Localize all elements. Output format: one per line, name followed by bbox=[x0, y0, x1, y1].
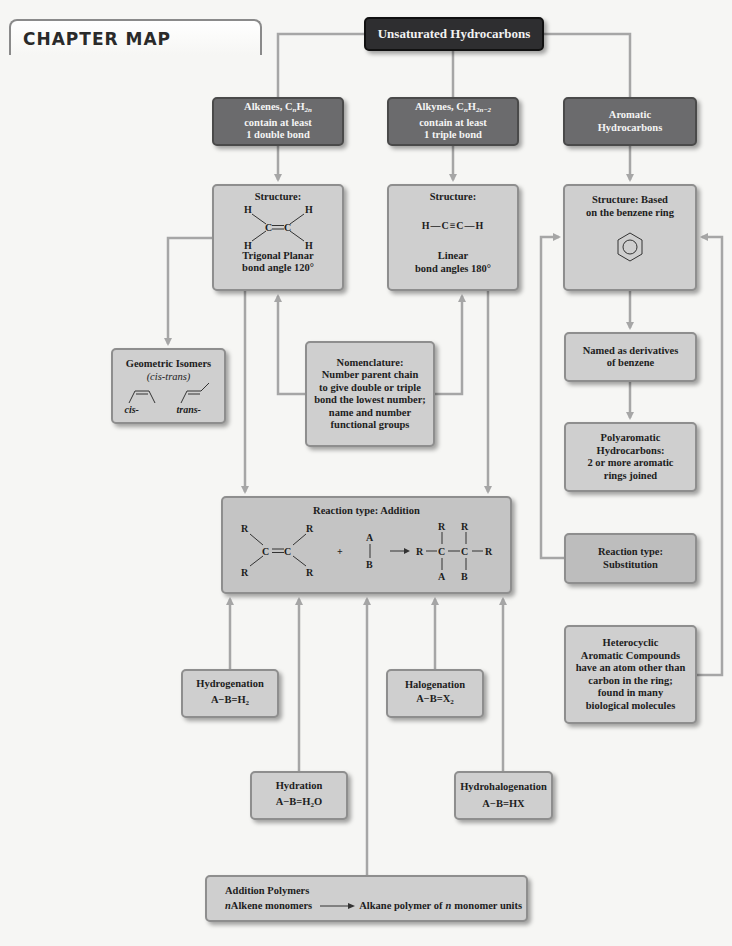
svg-text:B: B bbox=[461, 571, 468, 582]
svg-text:R: R bbox=[306, 523, 314, 534]
svg-text:R: R bbox=[461, 521, 469, 532]
hydration-name: Hydration bbox=[276, 780, 323, 793]
node-named-as-derivatives: Named as derivatives of benzene bbox=[564, 332, 697, 382]
hydrohalogenation-name: Hydrohalogenation bbox=[460, 781, 547, 794]
node-nomenclature: Nomenclature: Number parent chain to giv… bbox=[305, 341, 435, 447]
alkenes-line3: 1 double bond bbox=[246, 129, 310, 142]
hydrohalogenation-formula: A−B=HX bbox=[482, 798, 524, 811]
alkenes-line2: contain at least bbox=[244, 117, 312, 130]
aromatic-line2: Hydrocarbons bbox=[598, 122, 663, 135]
alkene-structure-title: Structure: bbox=[255, 191, 301, 204]
node-addition-reaction: Reaction type: Addition RR RR CC + AB R bbox=[221, 496, 512, 594]
hydrogenation-formula: A−B=H2 bbox=[211, 694, 249, 710]
cis-trans-drawing: cis- trans- bbox=[119, 383, 219, 417]
alkyne-bond-angle: bond angles 180° bbox=[415, 263, 491, 276]
alkyne-structure-title: Structure: bbox=[430, 191, 476, 204]
reaction-arrow-icon bbox=[320, 902, 356, 910]
svg-text:C: C bbox=[284, 222, 291, 233]
svg-text:C: C bbox=[461, 546, 468, 557]
chapter-map-header: CHAPTER MAP bbox=[9, 19, 262, 55]
heterocyclic-line: biological molecules bbox=[586, 700, 676, 713]
svg-text:H: H bbox=[244, 204, 252, 215]
alkene-bond-angle: bond angle 120° bbox=[242, 262, 314, 275]
node-substitution: Reaction type: Substitution bbox=[564, 533, 697, 584]
svg-text:R: R bbox=[241, 523, 249, 534]
node-addition-polymers: Addition Polymers n Alkene monomers Alka… bbox=[205, 875, 528, 922]
hydrogenation-name: Hydrogenation bbox=[196, 678, 263, 691]
nomenclature-line: functional groups bbox=[331, 419, 410, 432]
heterocyclic-line: found in many bbox=[598, 687, 663, 700]
svg-text:H: H bbox=[244, 240, 252, 250]
node-hydrohalogenation: Hydrohalogenation A−B=HX bbox=[454, 771, 553, 820]
heterocyclic-line: carbon in the ring; bbox=[588, 675, 672, 688]
alkynes-formula-line: Alkynes, CnH2n−2 bbox=[415, 101, 491, 117]
aromatic-line1: Aromatic bbox=[609, 109, 651, 122]
chapter-map-diagram: CHAPTER MAP Unsaturated Hydrocarbons Alk… bbox=[0, 0, 732, 946]
addition-reaction-equation-icon: RR RR CC + AB R CC R RR AB bbox=[232, 518, 502, 586]
alkene-geometry: Trigonal Planar bbox=[242, 250, 313, 263]
svg-text:+: + bbox=[337, 546, 343, 557]
svg-text:R: R bbox=[241, 567, 249, 578]
svg-text:B: B bbox=[366, 559, 373, 570]
hydration-formula: A−B=H2O bbox=[276, 796, 322, 812]
heterocyclic-line: Aromatic Compounds bbox=[581, 650, 680, 663]
node-hydration: Hydration A−B=H2O bbox=[250, 771, 348, 820]
substitution-line2: Substitution bbox=[603, 559, 658, 572]
named-line2: of benzene bbox=[607, 357, 655, 370]
nomenclature-line: bond the lowest number; bbox=[314, 394, 426, 407]
heterocyclic-line: have an atom other than bbox=[576, 662, 685, 675]
nomenclature-line: Nomenclature: bbox=[337, 357, 404, 370]
node-aromatic-structure: Structure: Based on the benzene ring bbox=[563, 184, 697, 291]
node-heterocyclic: Heterocyclic Aromatic Compounds have an … bbox=[564, 625, 697, 724]
acetylene-formula: H—C≡C—H bbox=[422, 220, 485, 233]
svg-text:C: C bbox=[438, 546, 445, 557]
node-alkyne-structure: Structure: H—C≡C—H Linear bond angles 18… bbox=[387, 184, 519, 291]
benzene-ring-icon bbox=[615, 231, 645, 263]
svg-text:C: C bbox=[265, 222, 272, 233]
substitution-line1: Reaction type: bbox=[598, 546, 663, 559]
svg-text:A: A bbox=[438, 571, 446, 582]
polyaromatic-line: rings joined bbox=[604, 470, 657, 483]
node-geometric-isomers: Geometric Isomers (cis-trans) cis- trans… bbox=[111, 348, 226, 424]
svg-text:H: H bbox=[305, 240, 313, 250]
polyaromatic-line: Hydrocarbons: bbox=[596, 445, 664, 458]
alkenes-formula-line: Alkenes, CnH2n bbox=[244, 101, 312, 117]
node-aromatic-hydrocarbons: Aromatic Hydrocarbons bbox=[563, 97, 697, 146]
polyaromatic-line: Polyaromatic bbox=[601, 432, 661, 445]
svg-text:R: R bbox=[306, 567, 314, 578]
named-line1: Named as derivatives bbox=[583, 345, 679, 358]
addition-polymers-title: Addition Polymers bbox=[225, 885, 309, 898]
alkyne-geometry: Linear bbox=[438, 250, 468, 263]
addition-reaction-title: Reaction type: Addition bbox=[313, 505, 420, 518]
halogenation-formula: A−B=X2 bbox=[416, 693, 454, 709]
cis-label: cis- bbox=[125, 404, 139, 417]
polyaromatic-line: 2 or more aromatic bbox=[587, 457, 673, 470]
nomenclature-line: name and number bbox=[329, 407, 411, 420]
svg-text:R: R bbox=[438, 521, 446, 532]
halogenation-name: Halogenation bbox=[405, 679, 465, 692]
svg-text:H: H bbox=[305, 204, 313, 215]
svg-text:C: C bbox=[284, 546, 291, 557]
node-hydrogenation: Hydrogenation A−B=H2 bbox=[181, 669, 279, 718]
svg-text:R: R bbox=[485, 546, 493, 557]
node-polyaromatic: Polyaromatic Hydrocarbons: 2 or more aro… bbox=[564, 422, 697, 492]
nomenclature-line: to give double or triple bbox=[319, 382, 421, 395]
heterocyclic-line: Heterocyclic bbox=[603, 637, 659, 650]
ethylene-structure-icon: HH HH CC bbox=[238, 204, 318, 250]
trans-label: trans- bbox=[177, 404, 201, 417]
node-alkynes: Alkynes, CnH2n−2 contain at least 1 trip… bbox=[387, 97, 519, 146]
root-label: Unsaturated Hydrocarbons bbox=[378, 28, 531, 41]
aromatic-structure-line1: Structure: Based bbox=[592, 194, 668, 207]
node-halogenation: Halogenation A−B=X2 bbox=[386, 669, 484, 718]
svg-text:R: R bbox=[416, 546, 424, 557]
nomenclature-line: Number parent chain bbox=[322, 369, 418, 382]
svg-text:A: A bbox=[366, 532, 374, 543]
geometric-isomers-title: Geometric Isomers bbox=[126, 358, 211, 371]
alkynes-line3: 1 triple bond bbox=[424, 129, 482, 142]
node-alkenes: Alkenes, CnH2n contain at least 1 double… bbox=[212, 97, 344, 146]
svg-text:C: C bbox=[262, 546, 269, 557]
node-alkene-structure: Structure: HH HH CC Trigonal Planar bond… bbox=[212, 184, 344, 291]
page-title: CHAPTER MAP bbox=[23, 29, 171, 49]
geometric-isomers-subtitle: (cis-trans) bbox=[147, 371, 191, 384]
addition-polymers-equation: n Alkene monomers Alkane polymer of n mo… bbox=[225, 900, 522, 913]
